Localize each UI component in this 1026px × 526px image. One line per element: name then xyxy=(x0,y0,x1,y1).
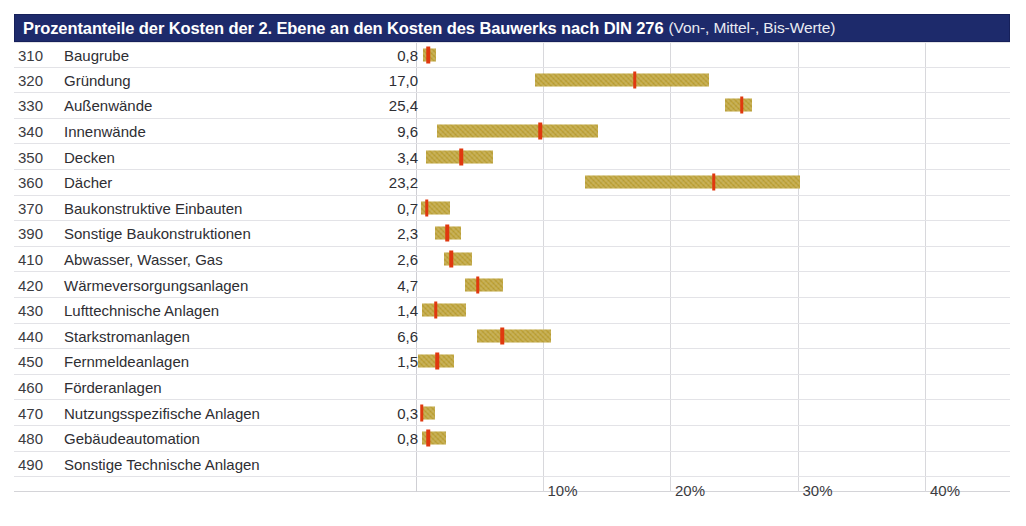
row-label: Innenwände xyxy=(64,123,146,140)
page-title: Prozentanteile der Kosten der 2. Ebene a… xyxy=(23,19,663,38)
row-code: 390 xyxy=(18,225,54,242)
table-row[interactable]: 420Wärmeversorgungsanlagen4,7 xyxy=(14,272,1010,298)
range-bar xyxy=(422,304,467,317)
chart-container: Prozentanteile der Kosten der 2. Ebene a… xyxy=(14,14,1010,492)
chart-title-bar: Prozentanteile der Kosten der 2. Ebene a… xyxy=(14,14,1010,42)
row-code: 460 xyxy=(18,379,54,396)
row-label: Lufttechnische Anlagen xyxy=(64,302,219,319)
bar-track xyxy=(415,68,1010,93)
row-code: 440 xyxy=(18,327,54,344)
table-row[interactable]: 330Außenwände25,4 xyxy=(14,93,1010,119)
mean-marker xyxy=(476,276,480,293)
row-label: Außenwände xyxy=(64,97,152,114)
range-bar xyxy=(422,432,446,445)
mean-marker xyxy=(426,46,430,63)
row-label: Förderanlagen xyxy=(64,379,162,396)
table-row[interactable]: 470Nutzungsspezifische Anlagen0,3 xyxy=(14,400,1010,426)
table-row[interactable]: 310Baugrube0,8 xyxy=(14,42,1010,68)
bar-track xyxy=(415,400,1010,425)
mean-marker xyxy=(740,97,744,114)
bar-track xyxy=(415,93,1010,118)
bar-track xyxy=(415,247,1010,272)
table-row[interactable]: 480Gebäudeautomation0,8 xyxy=(14,426,1010,452)
row-code: 420 xyxy=(18,276,54,293)
mean-marker xyxy=(435,353,439,370)
mean-marker xyxy=(449,251,453,268)
chart-rows: 310Baugrube0,8320Gründung17,0330Außenwän… xyxy=(14,42,1010,503)
row-code: 490 xyxy=(18,455,54,472)
row-label: Gründung xyxy=(64,71,131,88)
mean-marker xyxy=(539,123,543,140)
mean-marker xyxy=(426,430,430,447)
row-value: 23,2 xyxy=(389,174,418,191)
range-bar xyxy=(465,278,503,291)
bar-track xyxy=(415,324,1010,349)
row-code: 350 xyxy=(18,148,54,165)
bar-track xyxy=(415,375,1010,400)
table-row[interactable]: 340Innenwände9,6 xyxy=(14,119,1010,145)
range-bar xyxy=(437,125,598,138)
row-code: 370 xyxy=(18,199,54,216)
row-label: Baugrube xyxy=(64,46,129,63)
row-label: Wärmeversorgungsanlagen xyxy=(64,276,248,293)
row-label: Fernmeldeanlagen xyxy=(64,353,189,370)
row-code: 430 xyxy=(18,302,54,319)
bar-track xyxy=(415,119,1010,144)
range-bar xyxy=(422,406,435,419)
mean-marker xyxy=(425,199,429,216)
x-tick-label: 40% xyxy=(925,481,960,498)
row-code: 330 xyxy=(18,97,54,114)
bar-track xyxy=(415,298,1010,323)
x-tick-label: 20% xyxy=(670,481,705,498)
mean-marker xyxy=(633,71,637,88)
x-axis-labels: 10%20%30%40% xyxy=(14,477,1010,503)
row-label: Abwasser, Wasser, Gas xyxy=(64,251,223,268)
mean-marker xyxy=(500,327,504,344)
row-value: 17,0 xyxy=(389,71,418,88)
table-row[interactable]: 390Sonstige Baukonstruktionen2,3 xyxy=(14,221,1010,247)
range-bar xyxy=(585,176,800,189)
mean-marker xyxy=(420,404,424,421)
x-tick-label: 30% xyxy=(798,481,833,498)
bar-track xyxy=(415,426,1010,451)
bar-track xyxy=(415,196,1010,221)
axis-track: 10%20%30%40% xyxy=(415,477,1010,503)
row-code: 410 xyxy=(18,251,54,268)
table-row[interactable]: 440Starkstromanlagen6,6 xyxy=(14,324,1010,350)
table-row[interactable]: 350Decken3,4 xyxy=(14,144,1010,170)
range-bar xyxy=(477,329,551,342)
row-label: Dächer xyxy=(64,174,112,191)
row-code: 360 xyxy=(18,174,54,191)
bar-track xyxy=(415,144,1010,169)
row-code: 470 xyxy=(18,404,54,421)
bar-track xyxy=(415,170,1010,195)
range-bar xyxy=(535,73,708,86)
table-row[interactable]: 410Abwasser, Wasser, Gas2,6 xyxy=(14,247,1010,273)
table-row[interactable]: 370Baukonstruktive Einbauten0,7 xyxy=(14,196,1010,222)
mean-marker xyxy=(712,174,716,191)
row-label: Starkstromanlagen xyxy=(64,327,190,344)
table-row[interactable]: 430Lufttechnische Anlagen1,4 xyxy=(14,298,1010,324)
row-code: 320 xyxy=(18,71,54,88)
page-subtitle: (Von-, Mittel-, Bis-Werte) xyxy=(668,19,835,37)
table-row[interactable]: 320Gründung17,0 xyxy=(14,68,1010,94)
table-row[interactable]: 450Fernmeldeanlagen1,5 xyxy=(14,349,1010,375)
row-label: Sonstige Technische Anlagen xyxy=(64,455,260,472)
range-bar xyxy=(444,253,472,266)
row-value: 25,4 xyxy=(389,97,418,114)
row-label: Nutzungsspezifische Anlagen xyxy=(64,404,260,421)
table-row[interactable]: 360Dächer23,2 xyxy=(14,170,1010,196)
bar-track xyxy=(415,221,1010,246)
table-row[interactable]: 490Sonstige Technische Anlagen xyxy=(14,452,1010,478)
chart-body: 310Baugrube0,8320Gründung17,0330Außenwän… xyxy=(14,42,1010,492)
row-label: Baukonstruktive Einbauten xyxy=(64,199,242,216)
table-row[interactable]: 460Förderanlagen xyxy=(14,375,1010,401)
row-label: Gebäudeautomation xyxy=(64,430,200,447)
row-label: Decken xyxy=(64,148,115,165)
row-code: 340 xyxy=(18,123,54,140)
mean-marker xyxy=(460,148,464,165)
row-code: 450 xyxy=(18,353,54,370)
x-tick-label: 10% xyxy=(543,481,578,498)
row-code: 480 xyxy=(18,430,54,447)
bar-track xyxy=(415,349,1010,374)
